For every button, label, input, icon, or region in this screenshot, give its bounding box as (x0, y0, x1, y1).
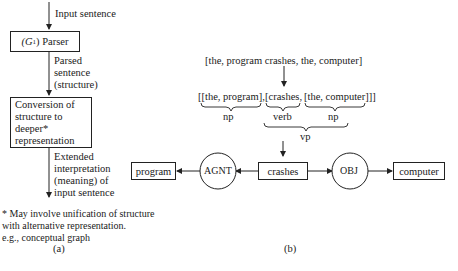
parser-label: ) Parser (36, 36, 68, 47)
node-program: program (131, 162, 176, 180)
parser-symbol: (G (22, 36, 33, 47)
brace-label-np2: np (328, 111, 339, 123)
brace-np1 (201, 103, 261, 111)
caption-b: (b) (284, 243, 296, 255)
input-sentence-label: Input sentence (55, 8, 116, 20)
brace-np2 (305, 103, 365, 111)
parsed-list-part2: [crashes, (265, 91, 302, 103)
brace-verb (266, 103, 300, 111)
extended-interpretation-label: Extended interpretation (meaning) of inp… (54, 151, 114, 199)
node-crashes: crashes (258, 162, 308, 180)
node-agnt-label: AGNT (204, 165, 232, 177)
footnote: * May involve unification of structure w… (2, 208, 154, 244)
node-computer: computer (393, 162, 445, 180)
brace-label-vp: vp (300, 131, 311, 143)
caption-a: (a) (53, 243, 65, 255)
conversion-box: Conversion of structure to deeper* repre… (10, 97, 92, 148)
parser-box: (G1) Parser (10, 31, 80, 52)
brace-label-verb: verb (273, 111, 292, 123)
brace-vp (264, 123, 348, 131)
input-list: [the, program crashes, the, computer] (205, 55, 362, 67)
node-obj-label: OBJ (340, 165, 358, 177)
parsed-list-part1: [[the, program], (198, 91, 265, 103)
brace-label-np1: np (223, 111, 234, 123)
parsed-sentence-label: Parsed sentence (structure) (54, 55, 98, 91)
parsed-list-part3: [the, computer]]] (304, 91, 376, 103)
